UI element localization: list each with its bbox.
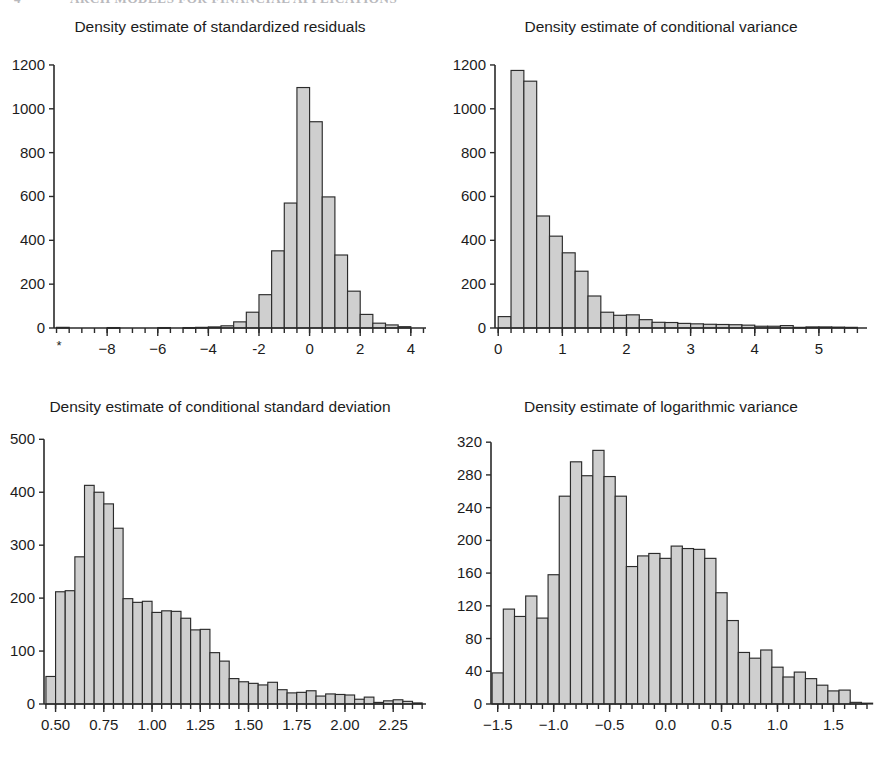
histogram-bar <box>65 591 75 704</box>
histogram-bar <box>738 652 749 704</box>
panel-logarithmic-variance: Density estimate of logarithmic variance… <box>441 398 881 764</box>
histogram-bar <box>297 692 307 704</box>
histogram-bar <box>716 593 727 704</box>
histogram-bar <box>268 682 278 704</box>
histogram-bar <box>94 492 104 704</box>
panel-title: Density estimate of conditional standard… <box>0 398 440 416</box>
panel-standardized-residuals: Density estimate of standardized residua… <box>0 18 440 390</box>
histogram-bar <box>511 70 524 328</box>
x-tick-label: −8 <box>99 340 116 357</box>
y-tick-label: 200 <box>457 531 482 548</box>
y-tick-label: 500 <box>10 430 35 447</box>
histogram-bar <box>56 592 66 704</box>
y-tick-label: 0 <box>478 319 486 336</box>
histogram-bar <box>794 672 805 704</box>
histogram-bar <box>805 679 816 704</box>
x-tick-label: 2 <box>356 340 364 357</box>
histogram-bar <box>537 618 548 704</box>
histogram-bar <box>162 611 172 704</box>
y-tick-label: 100 <box>10 642 35 659</box>
histogram-bar <box>326 694 336 704</box>
histogram-bar <box>229 679 239 704</box>
histogram-bar <box>526 596 537 704</box>
x-tick-label: −4 <box>200 340 217 357</box>
histogram-conditional-standard-deviation: 01002003004005000.500.751.001.251.501.75… <box>0 424 440 750</box>
y-tick-label: 1200 <box>12 56 45 73</box>
y-tick-label: 600 <box>20 187 45 204</box>
histogram-bar <box>562 253 575 328</box>
histogram-bar <box>705 558 716 704</box>
x-tick-label: 2.00 <box>330 716 359 733</box>
histogram-bar <box>234 322 247 328</box>
histogram-bar <box>550 236 563 328</box>
x-tick-label: 0.75 <box>89 716 118 733</box>
x-tick-label: 1.25 <box>186 716 215 733</box>
histogram-bar <box>152 612 162 704</box>
histogram-bar <box>575 271 588 328</box>
histogram-bar <box>277 690 287 704</box>
x-tick-label: 0.50 <box>41 716 70 733</box>
x-tick-label: 5 <box>815 340 823 357</box>
y-tick-label: 800 <box>461 144 486 161</box>
histogram-bar <box>639 320 652 328</box>
x-tick-label: −1.5 <box>483 716 513 733</box>
histogram-bar <box>839 690 850 704</box>
x-tick-label: −6 <box>149 340 166 357</box>
y-tick-label: 0 <box>474 695 482 712</box>
histogram-bar <box>649 553 660 704</box>
y-tick-label: 280 <box>457 466 482 483</box>
histogram-bar <box>345 695 355 704</box>
x-tick-label: 3 <box>686 340 694 357</box>
histogram-bar <box>548 575 559 704</box>
histogram-bar <box>181 618 191 704</box>
x-tick-label: 1 <box>558 340 566 357</box>
histogram-bar <box>306 691 316 704</box>
histogram-bar <box>626 315 639 328</box>
histogram-bar <box>239 682 249 704</box>
histogram-bar <box>537 216 550 328</box>
histogram-bar <box>614 315 627 328</box>
histogram-bar <box>615 496 626 704</box>
histogram-conditional-variance: 020040060080010001200012345 <box>441 44 881 374</box>
x-tick-label: 0.0 <box>655 716 676 733</box>
histogram-bar <box>191 630 201 704</box>
histogram-bar <box>246 312 259 328</box>
y-tick-label: 200 <box>461 275 486 292</box>
histogram-bar <box>335 255 348 328</box>
histogram-standardized-residuals: 020040060080010001200−8−6−4-2024* <box>0 44 440 374</box>
y-tick-label: 40 <box>465 662 482 679</box>
y-tick-label: 240 <box>457 499 482 516</box>
histogram-bar <box>498 317 511 328</box>
histogram-bar <box>249 683 259 704</box>
histogram-bar <box>604 477 615 704</box>
histogram-bar <box>123 599 133 704</box>
histogram-bar <box>593 450 604 704</box>
histogram-bar <box>104 504 114 704</box>
x-tick-label: 0 <box>494 340 502 357</box>
panel-conditional-variance: Density estimate of conditional variance… <box>441 18 881 390</box>
x-tick-label: 4 <box>407 340 415 357</box>
histogram-bar <box>671 546 682 704</box>
y-tick-label: 80 <box>465 630 482 647</box>
histogram-bar <box>761 650 772 704</box>
histogram-bar <box>259 295 272 328</box>
histogram-bar <box>626 567 637 704</box>
y-tick-label: 0 <box>27 695 35 712</box>
histogram-bar <box>772 667 783 704</box>
y-tick-label: 400 <box>20 231 45 248</box>
histogram-bar <box>85 485 95 704</box>
histogram-bar <box>559 496 570 704</box>
panel-title: Density estimate of standardized residua… <box>0 18 440 36</box>
histogram-bar <box>297 88 310 328</box>
panel-title: Density estimate of conditional variance <box>441 18 881 36</box>
histogram-bar <box>503 609 514 704</box>
histogram-bar <box>200 629 210 704</box>
histogram-bar <box>46 676 56 704</box>
histogram-bar <box>750 658 761 704</box>
y-tick-label: 1000 <box>12 100 45 117</box>
y-tick-label: 200 <box>10 589 35 606</box>
x-tick-label: −0.5 <box>595 716 625 733</box>
histogram-bar <box>287 693 297 704</box>
x-tick-label: 1.00 <box>137 716 166 733</box>
y-tick-label: 600 <box>461 187 486 204</box>
